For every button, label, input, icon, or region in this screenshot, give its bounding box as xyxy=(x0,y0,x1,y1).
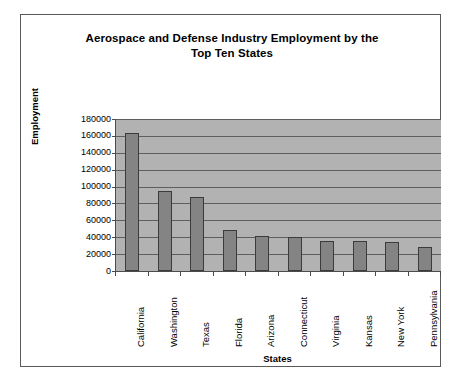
y-axis-tick-label: 160000 xyxy=(81,131,111,140)
y-axis-tick-label: 20000 xyxy=(86,250,111,259)
chart-title-line-2: Top Ten States xyxy=(47,46,417,61)
bar-series xyxy=(116,119,441,271)
x-axis-tick-mark xyxy=(115,272,116,276)
x-axis-category-label: Arizona xyxy=(265,315,276,347)
bar-slot xyxy=(311,119,344,271)
x-axis-tick-mark xyxy=(278,272,279,276)
x-axis-title: States xyxy=(115,353,440,364)
y-axis-tick-label: 0 xyxy=(106,267,111,276)
x-axis-tick-mark xyxy=(213,272,214,276)
y-axis-tick-label: 180000 xyxy=(81,115,111,124)
bar[interactable] xyxy=(418,247,432,271)
bar-slot xyxy=(376,119,409,271)
y-axis-tick-label: 80000 xyxy=(86,199,111,208)
bar-slot xyxy=(409,119,442,271)
x-axis-category-label: Virginia xyxy=(330,315,341,347)
bar[interactable] xyxy=(353,241,367,271)
plot-area xyxy=(115,119,441,272)
bar-slot xyxy=(181,119,214,271)
x-axis-tick-mark xyxy=(343,272,344,276)
bar[interactable] xyxy=(288,237,302,271)
bar[interactable] xyxy=(158,191,172,271)
x-axis-tick-mark xyxy=(408,272,409,276)
bar[interactable] xyxy=(385,242,399,271)
y-axis-title: Employment xyxy=(29,88,40,145)
x-axis-category-label: California xyxy=(135,307,146,347)
chart-frame: Aerospace and Defense Industry Employmen… xyxy=(20,14,441,367)
bar[interactable] xyxy=(223,230,237,271)
bar-slot xyxy=(344,119,377,271)
chart-title-line-1: Aerospace and Defense Industry Employmen… xyxy=(47,31,417,46)
x-axis-tick-marks xyxy=(115,272,441,276)
y-axis-tick-label: 140000 xyxy=(81,148,111,157)
x-axis-category-label: Kansas xyxy=(363,315,374,347)
y-axis-tick-label: 40000 xyxy=(86,233,111,242)
x-axis-category-label: Texas xyxy=(200,322,211,347)
y-axis-title-label: Employment xyxy=(29,88,40,145)
bar-slot xyxy=(279,119,312,271)
bar-slot xyxy=(214,119,247,271)
x-axis-category-label: Connecticut xyxy=(298,297,309,347)
chart-title: Aerospace and Defense Industry Employmen… xyxy=(47,31,417,61)
x-axis-category-label: New York xyxy=(395,307,406,347)
bar-slot xyxy=(246,119,279,271)
x-axis-category-labels: CaliforniaWashingtonTexasFloridaArizonaC… xyxy=(115,277,440,349)
x-axis-category-label: Pennsylvania xyxy=(428,290,439,347)
x-axis-tick-mark xyxy=(310,272,311,276)
bar[interactable] xyxy=(320,241,334,271)
x-axis-tick-mark xyxy=(245,272,246,276)
y-axis-tick-labels: 0200004000060000800001000001200001400001… xyxy=(57,119,111,271)
bar-slot xyxy=(149,119,182,271)
bar[interactable] xyxy=(255,236,269,271)
x-axis-category-label: Washington xyxy=(168,297,179,347)
bar[interactable] xyxy=(190,197,204,271)
x-axis-category-label: Florida xyxy=(233,318,244,347)
bar-slot xyxy=(116,119,149,271)
y-axis-tick-label: 100000 xyxy=(81,182,111,191)
y-axis-tick-label: 120000 xyxy=(81,165,111,174)
x-axis-tick-mark xyxy=(148,272,149,276)
bar[interactable] xyxy=(125,133,139,271)
x-axis-tick-mark xyxy=(440,272,441,276)
x-axis-tick-mark xyxy=(180,272,181,276)
x-axis-tick-mark xyxy=(375,272,376,276)
y-axis-tick-label: 60000 xyxy=(86,216,111,225)
